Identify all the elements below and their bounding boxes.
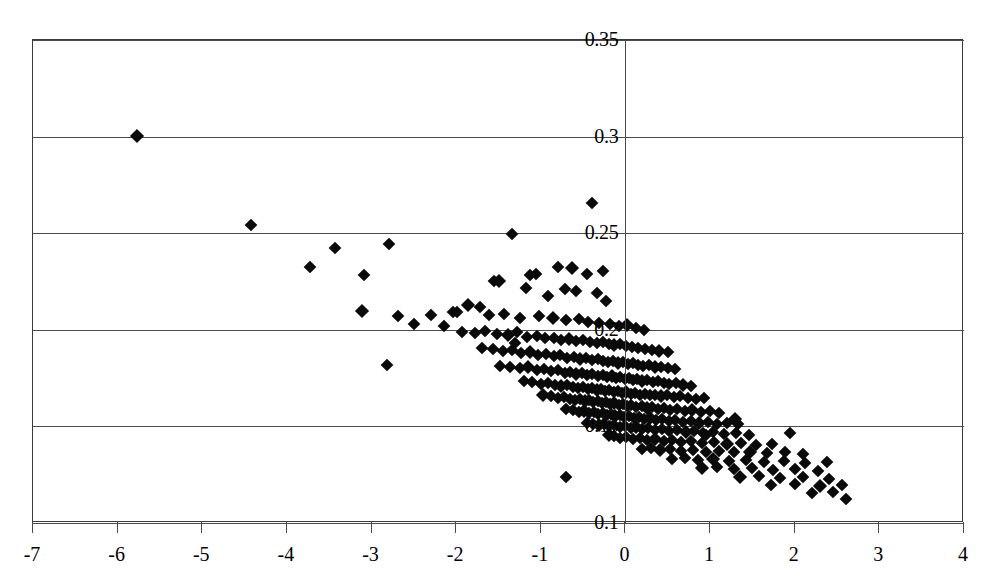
data-point (391, 310, 404, 323)
data-point (541, 290, 554, 303)
data-point (596, 264, 609, 277)
data-point (839, 492, 852, 505)
x-tick-mark--6 (117, 522, 118, 533)
data-point (130, 129, 144, 143)
vertical-axis-line (625, 40, 626, 523)
data-point (666, 453, 679, 466)
data-point (474, 300, 487, 313)
x-tick-label--3: -3 (351, 544, 391, 564)
x-tick-mark-2 (794, 522, 795, 533)
data-point (600, 294, 613, 307)
y-tick-label-0.35: 0.35 (546, 29, 618, 49)
data-point (355, 304, 369, 318)
data-point (565, 261, 579, 275)
data-point (513, 312, 526, 325)
x-tick-label-0: 0 (604, 544, 644, 564)
y-tick-label-0.3: 0.3 (546, 126, 618, 146)
x-tick-mark--5 (201, 522, 202, 533)
data-point (479, 324, 492, 337)
x-tick-mark-1 (709, 522, 710, 533)
data-point (560, 470, 573, 483)
y-tick-label-0.1: 0.1 (546, 512, 618, 532)
data-point (777, 455, 790, 468)
y-tick-label-0.15: 0.15 (546, 415, 618, 435)
data-point (784, 427, 797, 440)
data-point (765, 479, 778, 492)
x-tick-label--5: -5 (181, 544, 221, 564)
data-point (407, 318, 420, 331)
plot-area (32, 39, 963, 522)
gridline-y-0.3 (33, 137, 964, 138)
data-point (245, 218, 258, 231)
gridline-y-0.15 (33, 426, 964, 427)
data-point (812, 464, 825, 477)
scatter-chart: 0.10.150.20.250.30.35 -7-6-5-4-3-2-10123… (0, 0, 997, 588)
x-tick-label-4: 4 (943, 544, 983, 564)
x-tick-label--4: -4 (266, 544, 306, 564)
data-point (713, 407, 726, 420)
gridline-y-0.1 (33, 523, 964, 524)
data-point (329, 241, 342, 254)
x-tick-mark--3 (371, 522, 372, 533)
x-tick-label--6: -6 (97, 544, 137, 564)
x-tick-mark-4 (963, 522, 964, 533)
data-point (533, 310, 546, 323)
gridline-y-0.35 (33, 40, 964, 41)
y-tick-label-0.25: 0.25 (546, 222, 618, 242)
data-point (497, 308, 510, 321)
x-tick-mark--7 (32, 522, 33, 533)
x-tick-label--7: -7 (12, 544, 52, 564)
data-point (551, 261, 564, 274)
data-point (519, 282, 532, 295)
data-point (585, 197, 598, 210)
data-point (456, 325, 469, 338)
data-point (468, 326, 481, 339)
data-point (380, 358, 393, 371)
data-point (358, 268, 371, 281)
x-tick-mark--4 (286, 522, 287, 533)
data-point (821, 456, 834, 469)
data-point (506, 228, 519, 241)
data-point (580, 267, 593, 280)
x-tick-label--2: -2 (435, 544, 475, 564)
data-point (558, 283, 571, 296)
data-point (698, 392, 711, 405)
data-point (570, 285, 583, 298)
gridline-y-0.25 (33, 233, 964, 234)
data-point (424, 309, 437, 322)
x-tick-mark--2 (455, 522, 456, 533)
x-tick-mark-0 (624, 522, 625, 533)
data-point (483, 309, 496, 322)
x-tick-label--1: -1 (520, 544, 560, 564)
data-point (383, 237, 396, 250)
x-tick-label-1: 1 (689, 544, 729, 564)
y-tick-label-0.2: 0.2 (546, 319, 618, 339)
x-tick-label-2: 2 (774, 544, 814, 564)
data-point (303, 261, 316, 274)
data-point (461, 298, 475, 312)
x-tick-label-3: 3 (858, 544, 898, 564)
x-tick-mark-3 (878, 522, 879, 533)
x-tick-mark--1 (540, 522, 541, 533)
